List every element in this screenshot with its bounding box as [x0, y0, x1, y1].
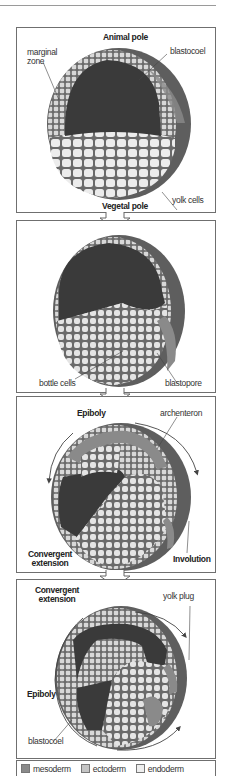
top-rule: [0, 5, 216, 6]
mid-gastrula-embryo-illustration: [17, 397, 215, 572]
label-epiboly: Epiboly: [27, 690, 56, 699]
panel-late-gastrula: Convergent extension yolk plug Epiboly b…: [16, 579, 216, 759]
label-archenteron: archenteron: [160, 409, 202, 418]
label-convergent-extension: Convergent extension: [25, 550, 75, 568]
panel-mid-gastrula: Epiboly archenteron Convergent extension…: [16, 396, 216, 573]
label-blastocoel: blastocoel: [28, 737, 63, 746]
label-epiboly: Epiboly: [77, 409, 106, 418]
legend: mesoderm ectoderm endoderm: [16, 760, 216, 776]
endoderm-swatch-icon: [136, 764, 145, 773]
label-blastocoel: blastocoel: [170, 47, 205, 56]
label-blastopore: blastopore: [165, 379, 202, 388]
late-gastrula-embryo-illustration: [17, 580, 215, 758]
label-animal-pole: Animal pole: [103, 33, 148, 42]
label-marginal-zone: marginal zone: [27, 48, 57, 66]
legend-label: ectoderm: [93, 764, 126, 774]
label-yolk-cells: yolk cells: [172, 196, 203, 205]
label-yolk-plug: yolk plug: [163, 592, 194, 601]
ectoderm-swatch-icon: [81, 764, 90, 773]
mesoderm-swatch-icon: [21, 764, 30, 773]
label-involution: Involution: [173, 555, 211, 564]
panel-early-gastrula: bottle cells blastopore: [16, 220, 216, 393]
legend-item-endoderm: endoderm: [136, 764, 184, 774]
legend-label: mesoderm: [33, 764, 71, 774]
label-vegetal-pole: Vegetal pole: [102, 202, 148, 211]
panel-blastula: Animal pole marginal zone blastocoel yol…: [16, 27, 216, 213]
legend-item-ectoderm: ectoderm: [81, 764, 126, 774]
early-gastrula-embryo-illustration: [17, 221, 215, 392]
legend-label: endoderm: [148, 764, 184, 774]
label-bottle-cells: bottle cells: [39, 379, 76, 388]
label-convergent-extension: Convergent extension: [27, 586, 87, 604]
legend-item-mesoderm: mesoderm: [21, 764, 71, 774]
